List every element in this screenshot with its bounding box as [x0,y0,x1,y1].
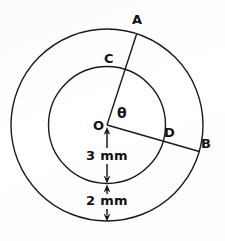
point-label-c: C [104,52,114,65]
point-label-d: D [164,126,175,139]
geometry-figure: A B C D O θ 3 mm 2 mm [0,0,225,241]
dimension-label-inner-radius: 3 mm [86,149,128,162]
point-label-a: A [132,13,142,26]
center-label-o: O [93,119,104,132]
point-label-b: B [201,137,211,150]
dimension-label-annulus-thickness: 2 mm [86,194,128,207]
angle-label-theta: θ [117,106,127,120]
